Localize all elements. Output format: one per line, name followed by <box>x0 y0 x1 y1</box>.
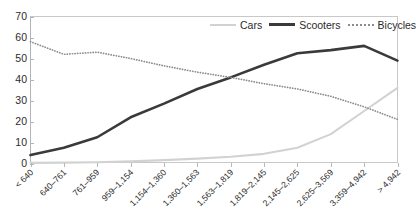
x-axis-tick-label: < 640 <box>13 168 35 190</box>
x-axis-tick-label: > 4,942 <box>375 168 402 195</box>
y-axis-tick-mark <box>30 59 34 60</box>
y-axis-tick-mark <box>30 101 34 102</box>
x-axis-tick-mark <box>131 163 132 167</box>
y-axis-tick-mark <box>30 17 34 18</box>
x-axis-tick-mark <box>164 163 165 167</box>
y-axis-tick-mark <box>30 80 34 81</box>
x-axis-tick-label: 640–761 <box>38 168 68 198</box>
x-axis-tick-mark <box>64 163 65 167</box>
x-axis-tick-label: 761–959 <box>72 168 102 198</box>
y-axis-tick-mark <box>30 143 34 144</box>
x-axis-tick-mark <box>398 163 399 167</box>
y-axis-tick-mark <box>30 122 34 123</box>
x-axis-tick-mark <box>264 163 265 167</box>
x-axis: < 640640–761761–959959–1,1541,154–1,3601… <box>0 163 409 215</box>
x-axis-tick-mark <box>364 163 365 167</box>
series-line-cars <box>31 88 398 163</box>
x-axis-tick-mark <box>197 163 198 167</box>
x-axis-tick-mark <box>97 163 98 167</box>
series-line-bicycles <box>31 42 398 120</box>
x-axis-tick-mark <box>231 163 232 167</box>
x-axis-tick-mark <box>297 163 298 167</box>
x-axis-tick-mark <box>31 163 32 167</box>
x-axis-tick-mark <box>331 163 332 167</box>
y-axis-tick-mark <box>30 38 34 39</box>
